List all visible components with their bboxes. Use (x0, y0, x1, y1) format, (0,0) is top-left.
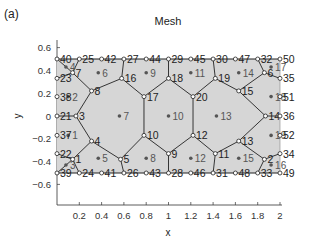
node-marker-icon (55, 76, 59, 80)
node-marker-icon (256, 171, 260, 175)
node-number: 18 (172, 72, 184, 84)
node-marker-icon (100, 171, 104, 175)
node-number: 22 (60, 148, 72, 160)
x-axis-label: x (166, 227, 171, 238)
node-number: 34 (283, 148, 295, 160)
y-tick-label: −0.2 (32, 133, 51, 144)
cell-centroid-icon (269, 134, 273, 138)
x-tick-label: 1 (166, 210, 171, 221)
node-marker-icon (233, 57, 237, 61)
node-number: 12 (196, 129, 208, 141)
node-number: 47 (238, 53, 250, 65)
node-number: 5 (124, 153, 130, 165)
node-number: 39 (60, 167, 72, 179)
node-marker-icon (262, 71, 266, 75)
x-tick-label: 0.8 (140, 210, 153, 221)
x-tick-label: 1.8 (251, 210, 264, 221)
cell-number: 10 (173, 111, 185, 122)
node-marker-icon (237, 89, 241, 93)
mesh-figure: (a) Mesh x y 0.20.40.60.811.21.41.61.820… (0, 0, 312, 248)
node-number: 49 (283, 167, 295, 179)
node-number: 37 (60, 129, 72, 141)
node-marker-icon (122, 171, 126, 175)
node-number: 20 (196, 91, 208, 103)
node-marker-icon (122, 57, 126, 61)
node-marker-icon (237, 139, 241, 143)
cell-centroid-icon (118, 114, 122, 118)
y-tick-label: −0.4 (32, 156, 51, 167)
plot-title: Mesh (155, 15, 182, 27)
node-marker-icon (142, 133, 146, 137)
node-marker-icon (213, 152, 217, 156)
cell-centroid-icon (96, 71, 100, 75)
node-number: 32 (261, 53, 273, 65)
node-number: 27 (127, 53, 139, 65)
x-tick-label: 0.6 (117, 210, 130, 221)
node-marker-icon (144, 171, 148, 175)
node-number: 23 (60, 72, 72, 84)
cell-centroid-icon (167, 114, 171, 118)
node-marker-icon (167, 152, 171, 156)
node-marker-icon (55, 57, 59, 61)
node-marker-icon (278, 133, 282, 137)
cell-number: 12 (195, 153, 207, 164)
node-marker-icon (144, 57, 148, 61)
cell-centroid-icon (189, 71, 193, 75)
node-marker-icon (189, 171, 193, 175)
node-number: 3 (79, 110, 85, 122)
node-number: 4 (95, 135, 101, 147)
mesh-node: 36 (278, 110, 295, 122)
node-marker-icon (142, 95, 146, 99)
cell-centroid-icon (237, 71, 241, 75)
node-number: 10 (147, 129, 159, 141)
cell-centroid-icon (96, 156, 100, 160)
cell-number: 8 (150, 153, 156, 164)
node-number: 13 (242, 135, 254, 147)
x-tick-label: 0.4 (95, 210, 108, 221)
node-marker-icon (233, 171, 237, 175)
node-marker-icon (100, 57, 104, 61)
node-number: 33 (261, 167, 273, 179)
cell-number: 14 (243, 68, 255, 79)
x-tick-label: 1.6 (229, 210, 242, 221)
cell-centroid-icon (64, 65, 68, 69)
node-marker-icon (264, 114, 268, 118)
node-number: 1 (76, 153, 82, 165)
node-number: 45 (194, 53, 206, 65)
node-number: 26 (127, 167, 139, 179)
node-marker-icon (119, 157, 123, 161)
node-number: 21 (60, 110, 72, 122)
cell-centroid-icon (215, 114, 219, 118)
node-number: 11 (218, 148, 229, 160)
node-marker-icon (278, 57, 282, 61)
node-marker-icon (167, 171, 171, 175)
node-marker-icon (211, 57, 215, 61)
node-marker-icon (191, 133, 195, 137)
y-tick-label: −0.6 (32, 179, 51, 190)
node-number: 35 (283, 72, 295, 84)
node-marker-icon (278, 76, 282, 80)
cell-number: 5 (102, 153, 108, 164)
node-number: 40 (60, 53, 72, 65)
mesh-node: 35 (278, 72, 295, 84)
cell-number: 15 (243, 153, 255, 164)
node-marker-icon (211, 171, 215, 175)
node-marker-icon (74, 114, 78, 118)
node-number: 44 (149, 53, 161, 65)
node-marker-icon (77, 57, 81, 61)
cell-centroid-icon (237, 156, 241, 160)
node-number: 7 (76, 67, 82, 79)
node-marker-icon (191, 95, 195, 99)
y-tick-label: 0.4 (38, 65, 51, 76)
node-number: 30 (216, 53, 228, 65)
node-marker-icon (213, 76, 217, 80)
cell-centroid-icon (269, 95, 273, 99)
node-marker-icon (167, 76, 171, 80)
x-tick-label: 2 (277, 210, 282, 221)
node-number: 28 (172, 167, 184, 179)
node-marker-icon (55, 152, 59, 156)
node-number: 50 (283, 53, 295, 65)
node-marker-icon (278, 95, 282, 99)
node-number: 43 (149, 167, 161, 179)
node-number: 38 (60, 91, 72, 103)
